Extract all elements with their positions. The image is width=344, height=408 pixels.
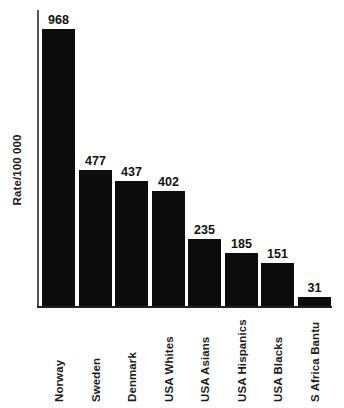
x-tick-label-slot: USA Hispanics: [225, 310, 258, 406]
bar-slot: 437: [115, 10, 148, 306]
bar: [79, 170, 112, 306]
x-tick-label-slot: Sweden: [79, 310, 112, 406]
x-tick-label: USA Whites: [163, 336, 175, 402]
x-tick-label: Denmark: [126, 352, 138, 402]
bar-slot: 31: [298, 10, 331, 306]
bar: [152, 191, 185, 306]
bar: [42, 29, 75, 306]
x-axis-tick-labels: NorwaySwedenDenmarkUSA WhitesUSA AsiansU…: [42, 310, 332, 406]
y-axis-line: [37, 10, 39, 307]
x-tick-label: USA Blacks: [272, 337, 284, 402]
x-tick-label: S Africa Bantu: [309, 322, 321, 402]
x-tick-label-slot: Denmark: [115, 310, 148, 406]
bar-slot: 235: [188, 10, 221, 306]
bar-value-label: 151: [267, 248, 288, 261]
x-tick-label-slot: USA Blacks: [261, 310, 294, 406]
x-tick-label-slot: Norway: [42, 310, 75, 406]
x-tick-label: USA Hispanics: [236, 319, 248, 402]
bar-slot: 477: [79, 10, 112, 306]
bar: [298, 297, 331, 306]
bar: [225, 253, 258, 306]
bar-value-label: 185: [231, 238, 252, 251]
bar: [115, 181, 148, 306]
bar: [188, 239, 221, 306]
bar-slot: 151: [261, 10, 294, 306]
bar-value-label: 31: [308, 282, 322, 295]
bar-slot: 185: [225, 10, 258, 306]
x-tick-label: Sweden: [90, 358, 102, 402]
bar-value-label: 968: [48, 14, 69, 27]
bar-chart: Rate/100 000 96847743740223518515131 Nor…: [0, 0, 344, 408]
x-tick-label-slot: S Africa Bantu: [298, 310, 331, 406]
x-tick-label-slot: USA Asians: [188, 310, 221, 406]
x-axis-line: [37, 306, 332, 308]
y-axis-label-wrap: Rate/100 000: [6, 110, 28, 230]
plot-area: 96847743740223518515131: [42, 10, 332, 306]
x-tick-label: Norway: [53, 360, 65, 402]
bar-value-label: 402: [158, 176, 179, 189]
bar-value-label: 437: [121, 166, 142, 179]
bar-slot: 402: [152, 10, 185, 306]
x-tick-label-slot: USA Whites: [152, 310, 185, 406]
y-axis-label: Rate/100 000: [11, 135, 23, 206]
bar: [261, 263, 294, 306]
bar-value-label: 235: [194, 224, 215, 237]
x-tick-label: USA Asians: [199, 337, 211, 402]
bar-value-label: 477: [85, 155, 106, 168]
bar-slot: 968: [42, 10, 75, 306]
